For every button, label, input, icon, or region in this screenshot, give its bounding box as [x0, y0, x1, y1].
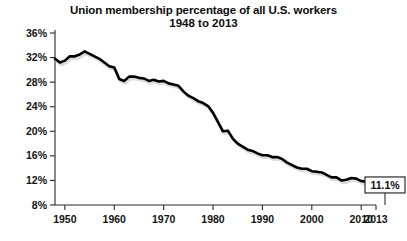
x-axis-ticks: 19501960197019801990200020102013 [53, 205, 388, 225]
y-axis-tick-label: 16% [26, 149, 48, 161]
callout-value-label: 11.1% [370, 179, 400, 191]
x-axis-tick-label: 1980 [201, 213, 225, 225]
x-axis-tick-label: 2000 [300, 213, 324, 225]
y-axis-ticks: 36%32%28%24%20%16%12%8% [26, 27, 55, 211]
y-axis-tick-label: 24% [26, 100, 48, 112]
line-chart-plot: 36%32%28%24%20%16%12%8% 1950196019701980… [0, 0, 407, 241]
callout-annotation: 11.1% [365, 177, 405, 205]
x-axis-tick-label: 1970 [152, 213, 176, 225]
y-axis-tick-label: 32% [26, 51, 48, 63]
y-axis-tick-label: 12% [26, 174, 48, 186]
chart-container: Union membership percentage of all U.S. … [0, 0, 407, 241]
x-axis-tick-label: 1960 [103, 213, 127, 225]
y-axis-tick-label: 28% [26, 76, 48, 88]
x-axis-tick-label: 1950 [53, 213, 77, 225]
y-axis-tick-label: 8% [32, 199, 48, 211]
x-axis-tick-label: 1990 [251, 213, 275, 225]
x-axis-tick-label: 2013 [364, 213, 388, 225]
y-axis-tick-label: 36% [26, 27, 48, 39]
y-axis-tick-label: 20% [26, 125, 48, 137]
series-line-union-membership [55, 51, 376, 186]
